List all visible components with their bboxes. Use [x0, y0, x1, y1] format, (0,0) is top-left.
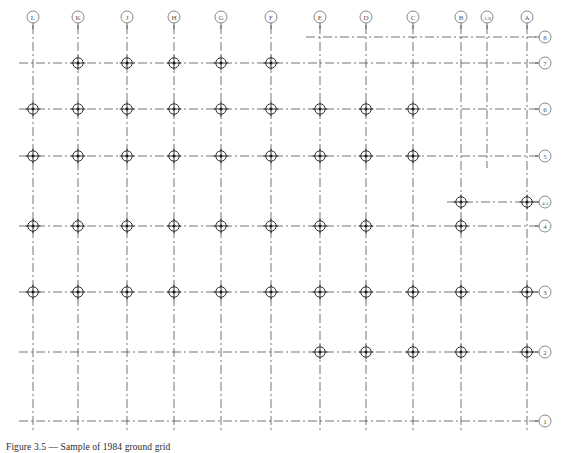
column-node-H-3[interactable] [167, 285, 182, 300]
node-centre-dot [126, 62, 129, 65]
bubble-label: 1 [543, 418, 547, 426]
grid-bubble-row-4[interactable]: 4 [535, 220, 551, 232]
column-node-G-4[interactable] [214, 219, 229, 234]
column-node-B-4.3[interactable] [454, 195, 469, 210]
column-node-C-6[interactable] [406, 102, 421, 117]
column-node-D-2[interactable] [359, 345, 374, 360]
grid-bubble-row-8[interactable]: 8 [535, 31, 551, 43]
column-node-H-6[interactable] [167, 102, 182, 117]
grid-bubble-column-C[interactable]: C [407, 11, 419, 29]
grid-bubble-row-4.3[interactable]: 4.3 [535, 196, 551, 208]
column-node-K-4[interactable] [71, 219, 86, 234]
grid-bubble-column-D[interactable]: D [360, 11, 372, 29]
column-node-G-6[interactable] [214, 102, 229, 117]
grid-bubble-row-1[interactable]: 1 [535, 415, 551, 427]
column-node-A-3[interactable] [520, 285, 535, 300]
node-centre-dot [220, 225, 223, 228]
grid-bubble-column-A.8[interactable]: A.8 [481, 11, 493, 29]
node-centre-dot [460, 225, 463, 228]
column-node-K-3[interactable] [71, 285, 86, 300]
column-node-L-5[interactable] [26, 149, 41, 164]
column-node-B-4[interactable] [454, 219, 469, 234]
grid-bubble-column-J[interactable]: J [121, 11, 133, 29]
grid-bubble-row-7[interactable]: 7 [535, 57, 551, 69]
node-centre-dot [460, 201, 463, 204]
column-node-L-3[interactable] [26, 285, 41, 300]
grid-bubble-row-5[interactable]: 5 [535, 150, 551, 162]
column-node-J-5[interactable] [120, 149, 135, 164]
column-node-C-5[interactable] [406, 149, 421, 164]
node-centre-dot [32, 291, 35, 294]
column-node-C-3[interactable] [406, 285, 421, 300]
column-node-D-6[interactable] [359, 102, 374, 117]
column-node-B-3[interactable] [454, 285, 469, 300]
column-node-E-6[interactable] [313, 102, 328, 117]
column-node-J-7[interactable] [120, 56, 135, 71]
node-centre-dot [77, 291, 80, 294]
column-node-H-5[interactable] [167, 149, 182, 164]
column-node-J-4[interactable] [120, 219, 135, 234]
grid-bubble-column-L[interactable]: L [27, 11, 39, 29]
node-centre-dot [126, 291, 129, 294]
column-node-C-2[interactable] [406, 345, 421, 360]
column-node-E-3[interactable] [313, 285, 328, 300]
grid-bubble-column-K[interactable]: K [72, 11, 84, 29]
bubble-label: F [269, 14, 273, 22]
node-centre-dot [270, 225, 273, 228]
node-centre-dot [319, 291, 322, 294]
grid-bubble-row-2[interactable]: 2 [535, 346, 551, 358]
column-node-J-3[interactable] [120, 285, 135, 300]
column-node-F-6[interactable] [264, 102, 279, 117]
column-node-F-5[interactable] [264, 149, 279, 164]
column-node-K-5[interactable] [71, 149, 86, 164]
column-node-E-2[interactable] [313, 345, 328, 360]
column-node-F-3[interactable] [264, 285, 279, 300]
column-node-D-3[interactable] [359, 285, 374, 300]
column-node-G-7[interactable] [214, 56, 229, 71]
grid-bubble-column-H[interactable]: H [168, 11, 180, 29]
column-node-B-2[interactable] [454, 345, 469, 360]
column-node-G-3[interactable] [214, 285, 229, 300]
column-node-A-2[interactable] [520, 345, 535, 360]
node-centre-dot [270, 155, 273, 158]
node-centre-dot [412, 351, 415, 354]
grid-bubble-column-E[interactable]: E [314, 11, 326, 29]
bubble-label: K [75, 14, 80, 22]
grid-bubble-column-B[interactable]: B [455, 11, 467, 29]
column-node-F-4[interactable] [264, 219, 279, 234]
column-node-K-7[interactable] [71, 56, 86, 71]
column-node-D-5[interactable] [359, 149, 374, 164]
column-node-L-4[interactable] [26, 219, 41, 234]
column-node-G-5[interactable] [214, 149, 229, 164]
column-node-A-4.3[interactable] [520, 195, 535, 210]
node-centre-dot [365, 225, 368, 228]
node-centre-dot [270, 291, 273, 294]
grid-bubble-row-6[interactable]: 6 [535, 103, 551, 115]
bubble-label: 5 [543, 153, 547, 161]
node-centre-dot [526, 351, 529, 354]
node-centre-dot [319, 351, 322, 354]
column-node-J-6[interactable] [120, 102, 135, 117]
bubble-label: B [459, 14, 464, 22]
grid-bubble-column-F[interactable]: F [265, 11, 277, 29]
node-centre-dot [412, 291, 415, 294]
column-node-E-4[interactable] [313, 219, 328, 234]
grid-bubble-column-G[interactable]: G [215, 11, 227, 29]
node-centre-dot [365, 291, 368, 294]
node-centre-dot [460, 351, 463, 354]
grid-bubble-row-3[interactable]: 3 [535, 286, 551, 298]
column-node-K-6[interactable] [71, 102, 86, 117]
bubble-label: 8 [543, 34, 547, 42]
column-node-H-7[interactable] [167, 56, 182, 71]
column-node-H-4[interactable] [167, 219, 182, 234]
node-centre-dot [77, 62, 80, 65]
column-node-E-5[interactable] [313, 149, 328, 164]
column-node-L-6[interactable] [26, 102, 41, 117]
grid-bubble-column-A[interactable]: A [521, 11, 533, 29]
column-node-F-7[interactable] [264, 56, 279, 71]
node-centre-dot [126, 108, 129, 111]
node-centre-dot [32, 108, 35, 111]
column-node-D-4[interactable] [359, 219, 374, 234]
